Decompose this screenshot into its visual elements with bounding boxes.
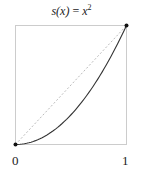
x-tick-1: 1 [122, 153, 129, 169]
identity-diagonal [16, 26, 127, 145]
start-point [14, 143, 18, 147]
end-point [125, 24, 129, 28]
plot-area [0, 0, 148, 172]
x-tick-0: 0 [12, 153, 19, 169]
